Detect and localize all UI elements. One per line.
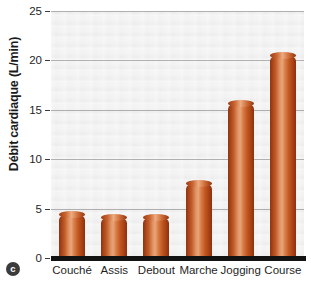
- y-axis-tick-mark: [45, 110, 50, 111]
- bar: [270, 55, 296, 258]
- bar-slot: [178, 11, 220, 258]
- bar-slot: [220, 11, 262, 258]
- bar: [228, 103, 254, 258]
- y-axis-tick-label: 15: [29, 104, 42, 116]
- y-axis-tick-label: 0: [36, 252, 42, 264]
- bar: [143, 217, 169, 258]
- y-axis-tick-mark: [45, 11, 50, 12]
- bar-slot: [51, 11, 93, 258]
- bar-top-cap: [101, 214, 127, 221]
- bar-top-cap: [143, 214, 169, 221]
- cardiac-output-bar-chart: Débit cardiaque (L/min) 0510152025 Couch…: [0, 0, 311, 283]
- y-axis-tick-label: 10: [29, 153, 42, 165]
- bar-slot: [262, 11, 304, 258]
- y-axis-tick-label: 25: [29, 5, 42, 17]
- y-axis-tick-label: 20: [29, 54, 42, 66]
- bar-top-cap: [186, 180, 212, 187]
- y-axis-tick-label: 5: [36, 203, 42, 215]
- bar: [186, 183, 212, 258]
- bar-slot: [93, 11, 135, 258]
- y-axis-tick-mark: [45, 258, 50, 259]
- bar-top-cap: [59, 211, 85, 218]
- bar-top-cap: [228, 100, 254, 107]
- bar: [59, 214, 85, 258]
- y-axis-tick-mark: [45, 159, 50, 160]
- y-axis-tick-mark: [45, 60, 50, 61]
- plot-area: 0510152025: [51, 11, 304, 258]
- bar-top-cap: [270, 52, 296, 59]
- x-axis-tick-label: Course: [256, 264, 310, 276]
- bar: [101, 217, 127, 258]
- y-axis-tick-mark: [45, 209, 50, 210]
- bars-group: [51, 11, 304, 258]
- y-axis-title: Débit cardiaque (L/min): [7, 4, 23, 204]
- panel-badge: c: [6, 262, 20, 276]
- x-axis-baseline: [51, 256, 306, 261]
- bar-slot: [135, 11, 177, 258]
